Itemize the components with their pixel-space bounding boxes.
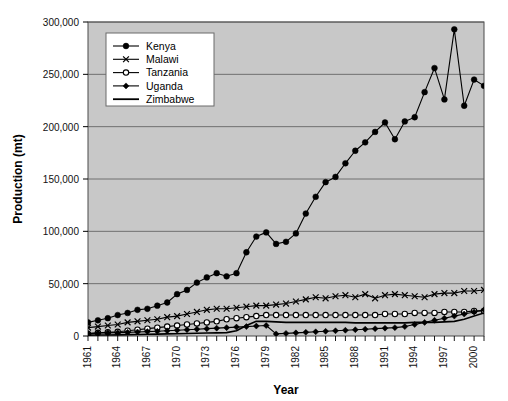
data-point <box>442 309 447 314</box>
data-point <box>333 174 339 180</box>
data-point <box>402 311 407 316</box>
data-point <box>432 310 437 315</box>
data-point <box>115 312 121 318</box>
y-tick-label: 300,000 <box>43 17 80 28</box>
legend-label: Tanzania <box>146 66 188 78</box>
data-point <box>254 313 259 318</box>
data-point <box>135 307 141 313</box>
data-point <box>244 314 249 319</box>
data-point <box>392 136 398 142</box>
y-tick-label: 200,000 <box>43 122 80 133</box>
data-point <box>164 300 170 306</box>
x-tick-label: 1964 <box>111 346 122 369</box>
data-point <box>125 310 131 316</box>
data-point <box>372 312 377 317</box>
data-point <box>283 312 288 317</box>
data-point <box>123 70 128 75</box>
data-point <box>204 274 210 280</box>
data-point <box>174 291 180 297</box>
data-point <box>105 315 111 321</box>
data-point <box>303 312 308 317</box>
data-point <box>273 241 279 247</box>
data-point <box>224 317 229 322</box>
legend-label: Uganda <box>146 80 183 92</box>
x-tick-label: 1961 <box>82 346 93 369</box>
data-point <box>194 280 200 286</box>
data-point <box>234 270 240 276</box>
y-tick-label: 100,000 <box>43 226 80 237</box>
data-point <box>273 312 278 317</box>
data-point <box>95 317 101 323</box>
data-point <box>253 234 259 240</box>
data-point <box>363 312 368 317</box>
data-point <box>392 311 397 316</box>
data-point <box>471 77 477 83</box>
data-point <box>451 26 457 32</box>
y-tick-label: 0 <box>73 331 79 342</box>
data-point <box>461 103 467 109</box>
data-point <box>343 312 348 317</box>
x-tick-label: 1991 <box>379 346 390 369</box>
x-tick-label: 1994 <box>408 346 419 369</box>
chart-legend: KenyaMalawiTanzaniaUgandaZimbabwe <box>106 33 214 106</box>
y-axis-label: Production (mt) <box>11 134 25 223</box>
data-point <box>382 120 388 126</box>
data-point <box>123 43 129 49</box>
data-point <box>214 319 219 324</box>
data-point <box>145 306 151 312</box>
x-tick-label: 1967 <box>141 346 152 369</box>
x-tick-label: 1970 <box>171 346 182 369</box>
x-tick-label: 2000 <box>468 346 479 369</box>
data-point <box>263 229 269 235</box>
data-point <box>323 179 329 185</box>
data-point <box>244 249 250 255</box>
x-tick-label: 1997 <box>438 346 449 369</box>
data-point <box>343 160 349 166</box>
x-tick-label: 1988 <box>349 346 360 369</box>
data-point <box>184 287 190 293</box>
data-point <box>293 312 298 317</box>
legend-label: Malawi <box>146 53 179 65</box>
data-point <box>204 320 209 325</box>
data-point <box>382 311 387 316</box>
data-point <box>432 65 438 71</box>
data-point <box>224 273 230 279</box>
data-point <box>214 270 220 276</box>
data-point <box>372 129 378 135</box>
data-point <box>234 316 239 321</box>
x-axis-ticks <box>88 336 484 341</box>
data-point <box>313 312 318 317</box>
data-point <box>154 303 160 309</box>
data-point <box>352 148 358 154</box>
data-point <box>283 239 289 245</box>
x-tick-label: 1976 <box>230 346 241 369</box>
data-point <box>442 97 448 103</box>
data-point <box>422 310 427 315</box>
legend-label: Zimbabwe <box>146 93 195 105</box>
y-tick-label: 50,000 <box>48 279 79 290</box>
data-point <box>293 231 299 237</box>
x-tick-label: 1973 <box>200 346 211 369</box>
data-point <box>402 119 408 125</box>
x-tick-label: 1985 <box>319 346 330 369</box>
data-point <box>323 312 328 317</box>
y-tick-label: 250,000 <box>43 69 80 80</box>
data-point <box>264 312 269 317</box>
data-point <box>333 312 338 317</box>
x-axis-label: Year <box>273 383 299 397</box>
production-line-chart: 050,000100,000150,000200,000250,000300,0… <box>0 0 508 401</box>
y-tick-label: 150,000 <box>43 174 80 185</box>
x-tick-label: 1979 <box>260 346 271 369</box>
data-point <box>362 139 368 145</box>
x-tick-label: 1982 <box>290 346 301 369</box>
data-point <box>353 312 358 317</box>
legend-label: Kenya <box>146 40 176 52</box>
data-point <box>412 310 417 315</box>
data-point <box>313 194 319 200</box>
data-point <box>194 321 199 326</box>
data-point <box>412 114 418 120</box>
data-point <box>303 211 309 217</box>
data-point <box>422 89 428 95</box>
